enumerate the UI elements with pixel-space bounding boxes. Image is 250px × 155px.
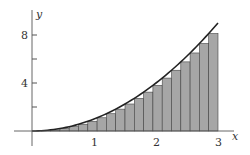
x-tick-label: 3: [215, 136, 222, 149]
bar: [172, 70, 181, 131]
bar: [181, 62, 190, 131]
x-ticks: 123: [91, 136, 222, 149]
bar: [88, 121, 97, 131]
bar: [97, 118, 106, 131]
riemann-sum-chart: 48 123 y x: [0, 0, 250, 155]
y-axis-label: y: [35, 8, 43, 21]
bar: [144, 92, 153, 131]
bar: [153, 85, 162, 131]
bar: [209, 34, 218, 131]
bar: [69, 127, 78, 131]
x-tick-label: 1: [91, 136, 98, 149]
x-tick-label: 2: [153, 136, 160, 149]
y-tick-label: 4: [21, 77, 28, 90]
y-ticks: 48: [21, 29, 37, 107]
bar: [116, 109, 125, 131]
bar: [190, 53, 199, 131]
bar: [79, 124, 88, 131]
bar: [134, 98, 143, 131]
bar: [199, 44, 208, 131]
bar: [162, 78, 171, 131]
y-tick-label: 8: [21, 29, 28, 42]
bar: [106, 114, 115, 131]
x-axis-label: x: [232, 130, 239, 143]
bar: [125, 104, 134, 131]
bars: [41, 34, 218, 131]
